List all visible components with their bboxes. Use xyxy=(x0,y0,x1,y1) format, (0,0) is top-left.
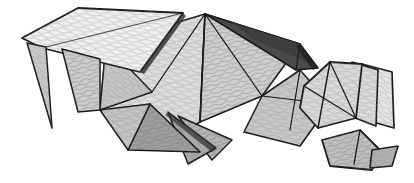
origami-elephant-drawing xyxy=(0,0,414,183)
origami-illustration-canvas: Origami Elephant xyxy=(0,0,414,183)
